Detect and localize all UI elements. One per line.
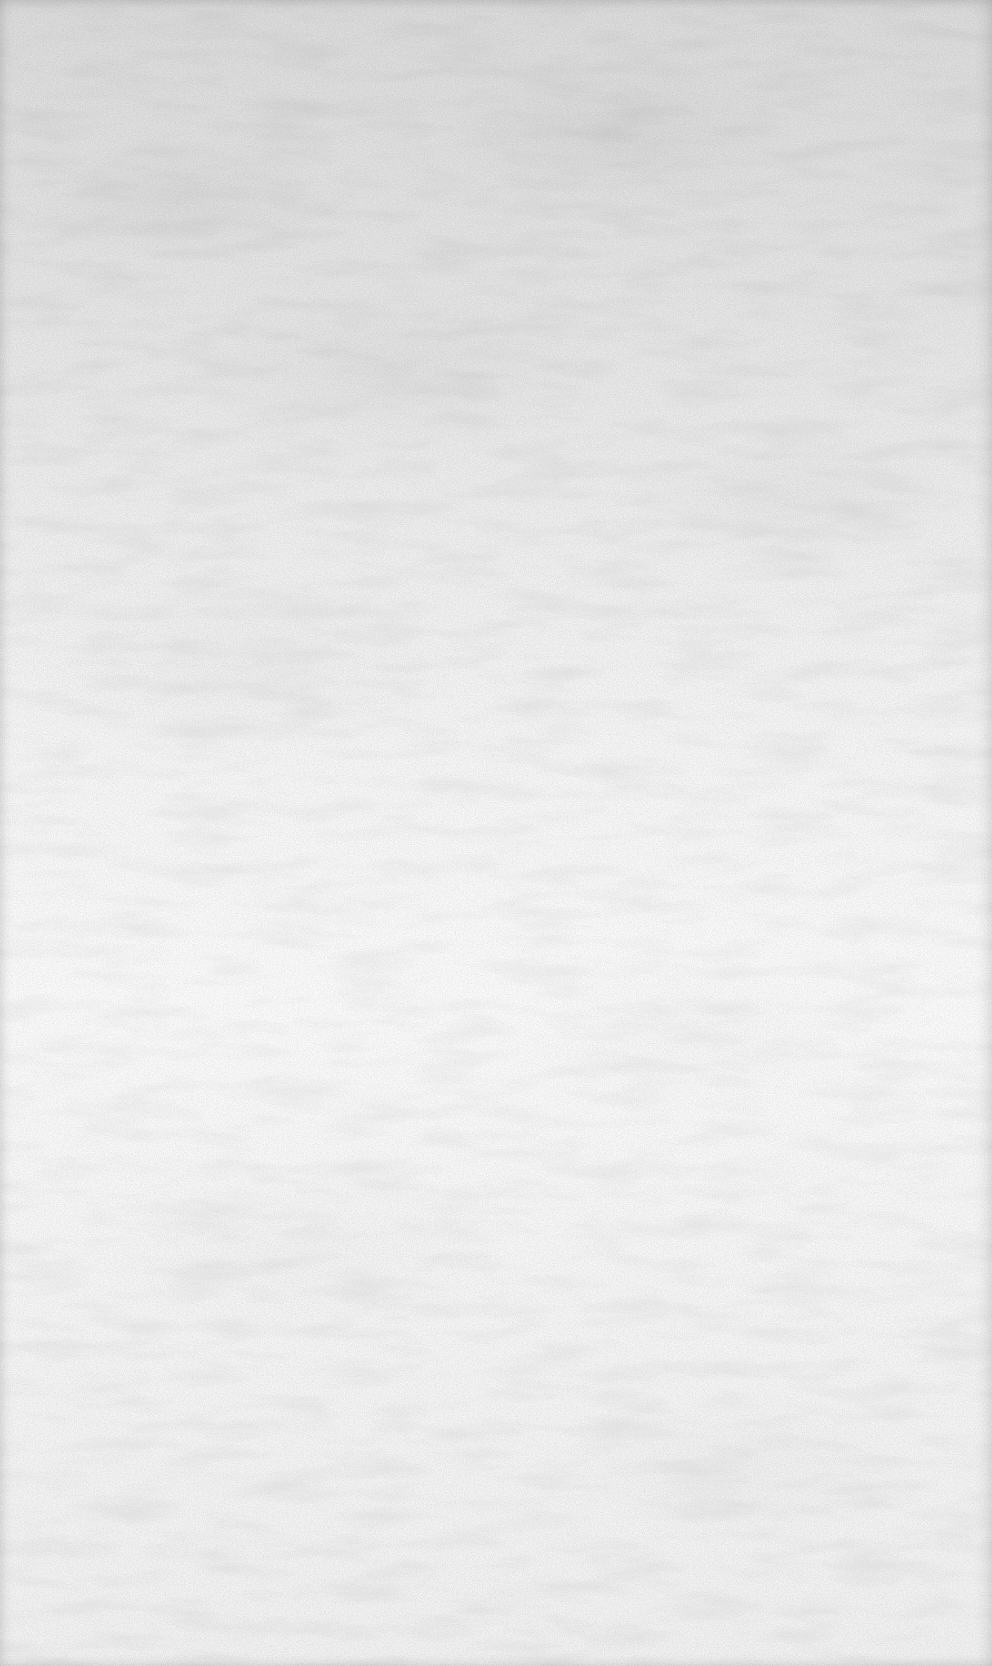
blank-paper-sheet (0, 0, 992, 1666)
paper-grain-texture (0, 0, 992, 1666)
